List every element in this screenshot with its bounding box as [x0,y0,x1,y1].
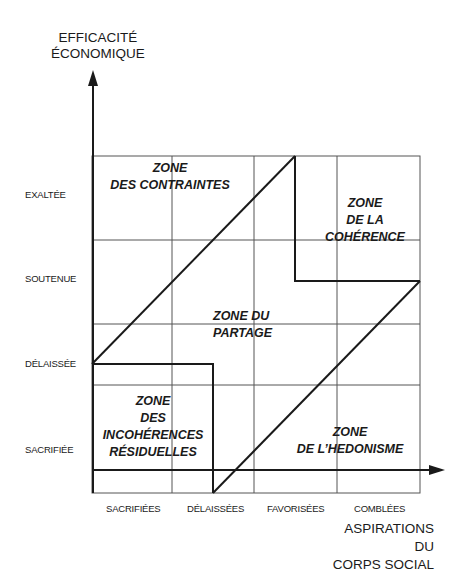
zone-hedonisme-line2: DE L’HEDONISME [290,441,410,458]
y-axis-arrow-icon [88,70,98,86]
zone-hedonisme-line1: ZONE [290,424,410,441]
x-axis-arrow-icon [429,465,445,475]
x-tick-delaissees: DÉLAISSÉES [187,503,244,514]
zone-incoherences-line2: DES [96,410,210,427]
zone-incoherences-line1: ZONE [96,393,210,410]
zone-contraintes-line1: ZONE [105,160,235,177]
zone-partage: ZONE DU PARTAGE [213,308,272,342]
y-tick-sacrifiee: SACRIFIÉE [25,444,73,455]
y-tick-exaltee: EXALTÉE [25,189,66,200]
zone-incoherences: ZONE DES INCOHÉRENCES RÉSIDUELLES [96,393,210,461]
x-tick-comblees: COMBLÉES [354,503,405,514]
x-axis [92,465,445,475]
y-axis-title-line2: ÉCONOMIQUE [48,46,148,62]
x-axis-title: ASPIRATIONS DU CORPS SOCIAL [320,520,434,574]
zone-hedonisme: ZONE DE L’HEDONISME [290,424,410,458]
zone-partage-line1: ZONE DU [213,308,272,325]
zone-coherence-line1: ZONE [315,195,415,212]
zone-coherence-line2: DE LA [315,212,415,229]
zone-coherence: ZONE DE LA COHÉRENCE [315,195,415,246]
diagram-canvas [0,0,467,588]
zone-incoherences-line3: INCOHÉRENCES [96,427,210,444]
x-tick-sacrifiees: SACRIFIÉES [106,503,161,514]
y-tick-soutenue: SOUTENUE [25,273,76,284]
x-axis-title-line3: CORPS SOCIAL [320,556,434,574]
zone-incoherences-line4: RÉSIDUELLES [96,444,210,461]
zone-coherence-line3: COHÉRENCE [315,229,415,246]
zone-contraintes: ZONE DES CONTRAINTES [105,160,235,194]
zone-partage-line2: PARTAGE [213,325,272,342]
y-tick-delaissee: DÉLAISSÉE [25,358,76,369]
x-tick-favorisees: FAVORISÉES [267,503,324,514]
zone-contraintes-line2: DES CONTRAINTES [105,177,235,194]
x-axis-title-line1: ASPIRATIONS [320,520,434,538]
x-axis-title-line2: DU [320,538,434,556]
y-axis-title: EFFICACITÉ ÉCONOMIQUE [48,30,148,62]
y-axis-title-line1: EFFICACITÉ [48,30,148,46]
